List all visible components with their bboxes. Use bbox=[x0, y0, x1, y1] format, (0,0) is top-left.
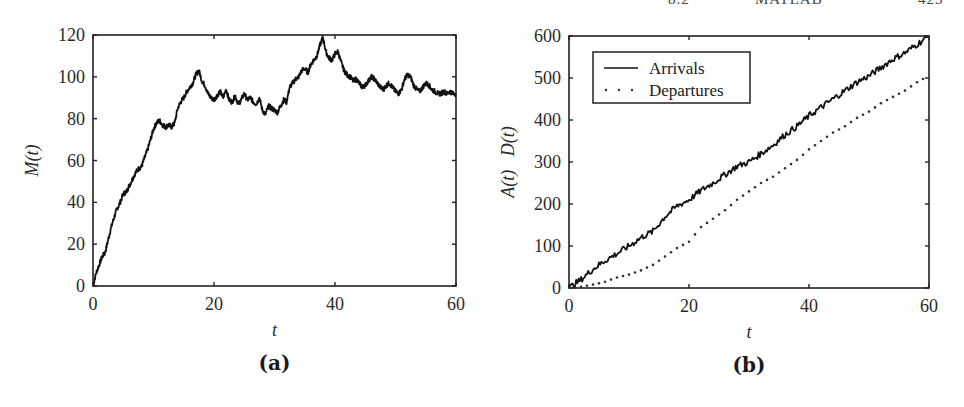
series-dot-departures bbox=[916, 81, 919, 84]
y-axis-label: A(t) D(t) bbox=[498, 126, 519, 198]
series-dot-departures bbox=[652, 264, 655, 267]
series-dot-departures bbox=[886, 99, 889, 102]
series-dot-departures bbox=[802, 153, 805, 156]
x-tick-label: 0 bbox=[89, 294, 98, 314]
series-dot-departures bbox=[586, 284, 589, 287]
x-tick-label: 60 bbox=[447, 294, 465, 314]
series-dot-departures bbox=[838, 128, 841, 131]
series-dot-departures bbox=[784, 167, 787, 170]
series-dot-departures bbox=[790, 163, 793, 166]
series-dot-departures bbox=[814, 144, 817, 147]
series-dot-departures bbox=[850, 121, 853, 124]
y-tick-label: 0 bbox=[76, 276, 85, 296]
x-axis-label: t bbox=[272, 320, 278, 340]
series-dot-departures bbox=[628, 273, 631, 276]
series-dot-departures bbox=[622, 275, 625, 278]
series-dot-departures bbox=[616, 276, 619, 279]
series-dot-departures bbox=[658, 259, 661, 262]
series-dot-departures bbox=[820, 140, 823, 143]
series-dot-departures bbox=[778, 171, 781, 174]
series-dot-departures bbox=[598, 282, 601, 285]
chart-panel-b: 02040600100200300400500600tA(t) D(t)(b)A… bbox=[498, 26, 938, 377]
series-dot-departures bbox=[736, 199, 739, 202]
legend-swatch-dotted bbox=[631, 89, 633, 91]
y-axis-label: M(t) bbox=[22, 145, 43, 178]
series-dot-departures bbox=[646, 266, 649, 269]
y-tick-label: 20 bbox=[67, 234, 85, 254]
series-dot-departures bbox=[664, 255, 667, 258]
series-dot-departures bbox=[706, 222, 709, 225]
series-dot-departures bbox=[898, 93, 901, 96]
series-dot-departures bbox=[904, 89, 907, 92]
series-dot-departures bbox=[742, 194, 745, 197]
y-tick-label: 300 bbox=[534, 152, 561, 172]
y-tick-label: 200 bbox=[534, 194, 561, 214]
series-dot-departures bbox=[910, 85, 913, 88]
series-dot-departures bbox=[766, 179, 769, 182]
series-dot-departures bbox=[634, 271, 637, 274]
series-dot-departures bbox=[826, 136, 829, 139]
y-tick-label: 100 bbox=[58, 67, 85, 87]
x-tick-label: 20 bbox=[205, 294, 223, 314]
chart-panel-a: 0204060020406080100120tM(t)(a) bbox=[22, 25, 465, 375]
y-tick-label: 100 bbox=[534, 236, 561, 256]
series-dot-departures bbox=[808, 148, 811, 151]
series-dot-departures bbox=[796, 159, 799, 162]
series-dot-departures bbox=[718, 213, 721, 216]
series-dot-departures bbox=[922, 78, 925, 81]
x-tick-label: 0 bbox=[565, 296, 574, 316]
x-tick-label: 40 bbox=[326, 294, 344, 314]
series-dot-departures bbox=[688, 241, 691, 244]
y-tick-label: 40 bbox=[67, 192, 85, 212]
y-tick-label: 0 bbox=[552, 278, 561, 298]
series-dot-departures bbox=[868, 110, 871, 113]
figure: 0204060020406080100120tM(t)(a) 020406001… bbox=[0, 0, 964, 407]
series-dot-departures bbox=[730, 204, 733, 207]
legend-swatch-dotted bbox=[618, 89, 620, 91]
series-dot-departures bbox=[874, 106, 877, 109]
y-tick-label: 80 bbox=[67, 109, 85, 129]
legend-label: Arrivals bbox=[649, 59, 705, 78]
series-dot-departures bbox=[640, 269, 643, 272]
series-dot-departures bbox=[772, 175, 775, 178]
series-dot-departures bbox=[670, 251, 673, 254]
series-dot-departures bbox=[724, 209, 727, 212]
series-dot-departures bbox=[748, 190, 751, 193]
series-line-m-t- bbox=[93, 36, 456, 286]
series-dot-departures bbox=[862, 114, 865, 117]
x-tick-label: 60 bbox=[920, 296, 938, 316]
series-dot-departures bbox=[892, 96, 895, 99]
series-dot-departures bbox=[754, 186, 757, 189]
legend: ArrivalsDepartures bbox=[593, 52, 750, 103]
series-dot-departures bbox=[844, 125, 847, 128]
series-dot-departures bbox=[676, 247, 679, 250]
legend-swatch-dotted bbox=[605, 89, 607, 91]
y-tick-label: 600 bbox=[534, 26, 561, 46]
series-dot-departures bbox=[760, 182, 763, 185]
series-dot-departures bbox=[694, 233, 697, 236]
y-tick-label: 120 bbox=[58, 25, 85, 45]
x-axis-label: t bbox=[746, 322, 752, 342]
y-tick-label: 400 bbox=[534, 110, 561, 130]
series-dot-departures bbox=[700, 226, 703, 229]
x-tick-label: 20 bbox=[680, 296, 698, 316]
y-tick-label: 500 bbox=[534, 68, 561, 88]
series-dot-departures bbox=[880, 102, 883, 105]
x-tick-label: 40 bbox=[800, 296, 818, 316]
series-dot-departures bbox=[604, 280, 607, 283]
panel-caption: (a) bbox=[259, 351, 291, 375]
series-dot-departures bbox=[832, 131, 835, 134]
series-dot-departures bbox=[610, 278, 613, 281]
series-dot-departures bbox=[592, 283, 595, 286]
legend-label: Departures bbox=[649, 81, 724, 100]
panel-caption: (b) bbox=[733, 353, 766, 377]
series-dot-departures bbox=[856, 117, 859, 120]
series-dot-departures bbox=[682, 244, 685, 247]
axes-frame bbox=[93, 35, 456, 286]
series-dot-departures bbox=[712, 217, 715, 220]
y-tick-label: 60 bbox=[67, 151, 85, 171]
